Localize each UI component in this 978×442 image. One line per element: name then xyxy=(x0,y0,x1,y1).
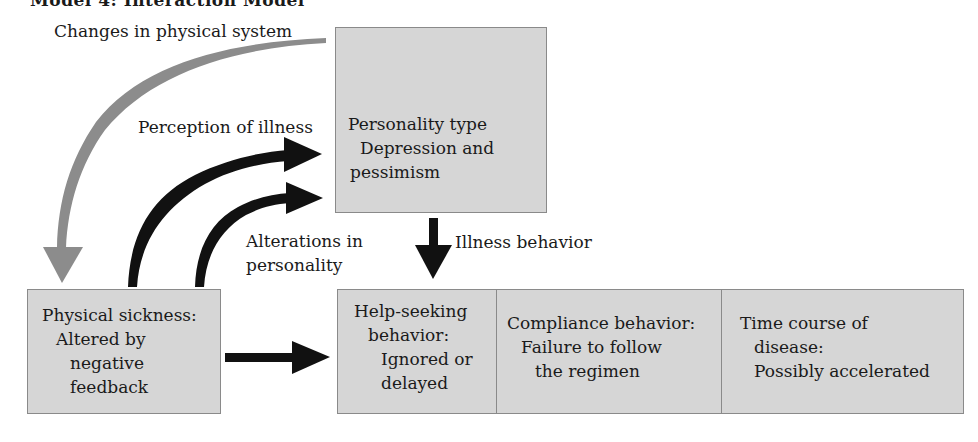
down-arrow-icon xyxy=(415,218,452,279)
outcomes-box: Help-seeking behavior: Ignored or delaye… xyxy=(337,289,964,414)
label-illness-behavior: Illness behavior xyxy=(455,231,592,253)
right-arrow-icon xyxy=(225,341,330,374)
physical-line1: Physical sickness: xyxy=(42,303,197,327)
time-course-line2: disease: xyxy=(754,335,824,359)
compliance-line2: Failure to follow xyxy=(521,335,662,359)
physical-sickness-box: Physical sickness: Altered by negative f… xyxy=(27,289,221,414)
compliance-line3: the regimen xyxy=(535,359,640,383)
help-seeking-cell: Help-seeking behavior: Ignored or delaye… xyxy=(338,290,496,413)
help-seeking-line2: behavior: xyxy=(368,323,449,347)
time-course-cell: Time course of disease: Possibly acceler… xyxy=(721,290,963,413)
personality-line1: Personality type xyxy=(348,112,487,136)
personality-line3: pessimism xyxy=(350,160,440,184)
personality-box: Personality type Depression and pessimis… xyxy=(335,27,547,213)
compliance-cell: Compliance behavior: Failure to follow t… xyxy=(496,290,721,413)
label-alterations-line1: Alterations in xyxy=(246,230,363,252)
time-course-line1: Time course of xyxy=(740,311,868,335)
label-changes-in-physical-system: Changes in physical system xyxy=(54,20,292,42)
help-seeking-line1: Help-seeking xyxy=(354,299,467,323)
personality-line2: Depression and xyxy=(360,136,494,160)
time-course-line3: Possibly accelerated xyxy=(754,359,930,383)
help-seeking-line4: delayed xyxy=(381,371,448,395)
label-alterations-line2: personality xyxy=(246,254,342,276)
physical-line3: negative xyxy=(70,351,144,375)
compliance-line1: Compliance behavior: xyxy=(507,311,695,335)
physical-line2: Altered by xyxy=(56,327,146,351)
label-perception-of-illness: Perception of illness xyxy=(138,116,313,138)
help-seeking-line3: Ignored or xyxy=(381,347,473,371)
physical-line4: feedback xyxy=(70,375,148,399)
